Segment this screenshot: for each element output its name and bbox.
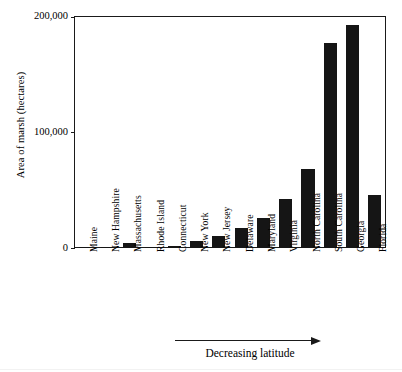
- y-tick-mark-0: [71, 248, 75, 249]
- x-label-south-carolina: South Carolina: [334, 193, 344, 252]
- bar-chart-figure: Area of marsh (hectares) 0 100,000 200,0…: [0, 0, 402, 372]
- scan-edge-artifact: [0, 369, 402, 370]
- x-axis-labels: MaineNew HampshireMassachusettsRhode Isl…: [74, 250, 386, 332]
- x-label-massachusetts: Massachusetts: [133, 195, 143, 252]
- x-label-florida: Florida: [378, 224, 388, 252]
- x-label-connecticut: Connecticut: [178, 205, 188, 252]
- y-tick-label-0: 0: [6, 243, 68, 253]
- y-tick-label-200000: 200,000: [6, 11, 68, 21]
- x-label-virginia: Virginia: [289, 220, 299, 252]
- y-tick-mark-200000: [71, 17, 75, 18]
- x-label-delaware: Delaware: [245, 214, 255, 252]
- x-label-north-carolina: North Carolina: [312, 193, 322, 252]
- x-label-new-york: New York: [200, 212, 210, 252]
- x-label-new-hampshire: New Hampshire: [111, 188, 121, 252]
- arrow-head-icon: [311, 337, 321, 345]
- decreasing-latitude-arrow: [175, 336, 325, 346]
- x-label-rhode-island: Rhode Island: [156, 200, 166, 252]
- y-tick-label-100000: 100,000: [6, 127, 68, 137]
- x-label-georgia: Georgia: [356, 221, 366, 252]
- x-axis-caption: Decreasing latitude: [130, 347, 370, 360]
- x-label-new-jersey: New Jersey: [222, 207, 232, 253]
- x-label-maryland: Maryland: [267, 214, 277, 252]
- y-axis-title: Area of marsh (hectares): [14, 40, 28, 210]
- arrow-line: [175, 340, 315, 341]
- y-tick-mark-100000: [71, 132, 75, 133]
- x-label-maine: Maine: [89, 227, 99, 252]
